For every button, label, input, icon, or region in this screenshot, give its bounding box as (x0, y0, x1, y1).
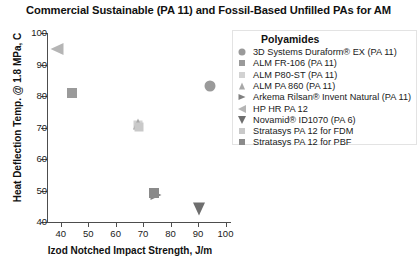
y-axis-title: Heat Deflection Temp. @ 1.8 MPa, C (12, 18, 23, 218)
data-point (193, 202, 205, 215)
plot-area (47, 33, 219, 222)
legend-marker-icon (238, 116, 246, 124)
legend-item[interactable]: Stratasys PA 12 for FDM (233, 125, 416, 137)
legend-item-label: Novamid® ID1070 (PA 6) (253, 114, 356, 126)
x-tick (171, 222, 172, 227)
legend-title: Polyamides (261, 33, 319, 45)
legend-marker-icon (239, 94, 246, 100)
x-tick (116, 222, 117, 227)
legend-item-label: Stratasys PA 12 for FDM (253, 125, 353, 137)
legend-item[interactable]: 3D Systems Duraform® EX (PA 11) (233, 46, 416, 58)
legend-item-label: ALM FR-106 (PA 11) (253, 57, 337, 69)
legend-item[interactable]: ALM P80-ST (PA 11) (233, 69, 416, 81)
chart-root: Commercial Sustainable (PA 11) and Fossi… (0, 0, 417, 267)
legend-item-label: Stratasys PA 12 for PBF (253, 136, 351, 148)
legend-item-label: 3D Systems Duraform® EX (PA 11) (253, 46, 397, 58)
x-tick (88, 222, 89, 227)
data-point (149, 188, 159, 198)
x-tick (226, 222, 227, 227)
data-point (67, 88, 77, 98)
legend-marker-icon (239, 82, 245, 89)
legend-item[interactable]: ALM FR-106 (PA 11) (233, 57, 416, 69)
legend-item-label: HP HR PA 12 (253, 103, 308, 115)
data-point (135, 123, 144, 132)
x-axis-title: Izod Notched Impact Strength, J/m (20, 245, 240, 256)
legend-item[interactable]: HP HR PA 12 (233, 103, 416, 115)
legend: Polyamides 3D Systems Duraform® EX (PA 1… (232, 30, 417, 145)
legend-item-label: ALM P80-ST (PA 11) (253, 69, 337, 81)
legend-item[interactable]: Arkema Rilsan® Invent Natural (PA 11) (233, 91, 416, 103)
data-point (205, 80, 216, 91)
legend-marker-icon (239, 72, 245, 78)
legend-marker-icon (239, 49, 246, 56)
x-tick (61, 222, 62, 227)
x-tick (198, 222, 199, 227)
page-title: Commercial Sustainable (PA 11) and Fossi… (0, 4, 417, 16)
legend-marker-icon (238, 105, 246, 113)
data-point (50, 43, 63, 55)
y-tick-label: 40 (17, 216, 47, 227)
x-tick (143, 222, 144, 227)
x-tick-label: 100 (209, 228, 243, 239)
legend-marker-icon (239, 60, 245, 66)
legend-marker-icon (239, 128, 245, 134)
legend-marker-icon (239, 139, 245, 145)
x-axis-line (47, 222, 231, 223)
legend-item[interactable]: ALM PA 860 (PA 11) (233, 80, 416, 92)
legend-item-label: ALM PA 860 (PA 11) (253, 80, 335, 92)
legend-item[interactable]: Novamid® ID1070 (PA 6) (233, 114, 416, 126)
legend-item[interactable]: Stratasys PA 12 for PBF (233, 136, 416, 148)
legend-item-label: Arkema Rilsan® Invent Natural (PA 11) (253, 91, 411, 103)
